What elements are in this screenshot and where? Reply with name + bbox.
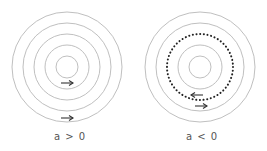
- ring: [189, 56, 211, 78]
- concentric-rings-diagram: [0, 0, 267, 151]
- ring: [56, 56, 78, 78]
- ring: [178, 45, 222, 89]
- label-a-negative: a < 0: [186, 131, 218, 142]
- ring: [34, 34, 100, 100]
- label-a-positive: a > 0: [54, 131, 86, 142]
- dotted-orbit: [167, 34, 233, 100]
- ring: [12, 12, 122, 122]
- ring: [45, 45, 89, 89]
- ring: [156, 23, 244, 111]
- ring: [23, 23, 111, 111]
